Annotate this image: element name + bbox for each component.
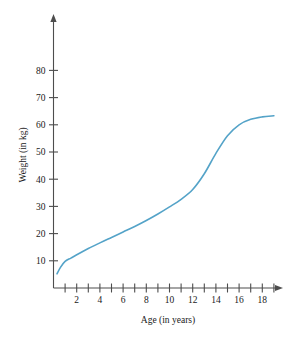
x-tick-label-8: 8 — [144, 295, 149, 305]
y-tick-label-30: 30 — [36, 202, 46, 212]
y-tick-label-70: 70 — [36, 93, 46, 103]
x-tick-label-18: 18 — [258, 295, 268, 305]
x-tick-label-16: 16 — [234, 295, 244, 305]
x-tick-label-2: 2 — [74, 295, 79, 305]
y-tick-label-60: 60 — [36, 120, 46, 130]
x-axis-title: Age (in years) — [141, 315, 195, 326]
x-tick-label-12: 12 — [188, 295, 198, 305]
y-tick-label-50: 50 — [36, 147, 46, 157]
x-tick-label-6: 6 — [121, 295, 126, 305]
y-tick-label-10: 10 — [36, 256, 46, 266]
x-tick-label-4: 4 — [98, 295, 103, 305]
x-axis-arrow-icon — [275, 285, 283, 291]
y-tick-label-group: 1020304050607080 — [36, 66, 46, 266]
x-tick-label-10: 10 — [165, 295, 175, 305]
weight-curve — [57, 116, 274, 274]
y-tick-label-20: 20 — [36, 229, 46, 239]
growth-chart-figure: 1020304050607080 24681012141618 Age (in … — [0, 0, 293, 340]
y-axis-title: Weight (in kg) — [18, 127, 29, 182]
y-axis-arrow-icon — [50, 14, 56, 22]
y-tick-label-40: 40 — [36, 175, 46, 185]
y-tick-label-80: 80 — [36, 66, 46, 76]
x-tick-label-14: 14 — [211, 295, 221, 305]
x-tick-label-group: 24681012141618 — [74, 295, 267, 305]
chart-canvas: 1020304050607080 24681012141618 Age (in … — [0, 0, 293, 340]
